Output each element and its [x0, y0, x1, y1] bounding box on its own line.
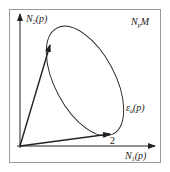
x-axis-label: N1(p) — [125, 151, 146, 162]
y-axis-label: N2(p) — [26, 14, 47, 25]
vector-2 — [20, 134, 110, 146]
ellipse-curve — [30, 14, 139, 148]
space-label: NpM — [131, 17, 149, 28]
vector-2-label: 2 — [110, 136, 115, 146]
ellipse-label: εa(p) — [126, 103, 145, 114]
vector-1 — [20, 45, 50, 146]
